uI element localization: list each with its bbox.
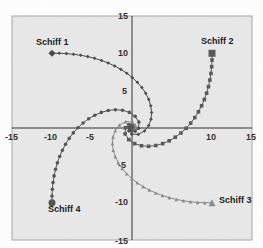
series-4-marker xyxy=(54,168,58,172)
series-4-marker xyxy=(114,108,118,112)
series-2-marker xyxy=(203,98,207,102)
chart-container: -15 -10 -5 10 15 15 10 5 -5 -10 -15 Schi… xyxy=(0,0,263,248)
series-2-marker xyxy=(205,91,209,95)
series-2-marker xyxy=(189,121,193,125)
series-2-marker xyxy=(127,138,131,142)
series-4-marker xyxy=(51,187,55,191)
series-4-marker xyxy=(58,155,62,159)
series-2-marker xyxy=(147,144,151,148)
series-2-marker xyxy=(124,126,128,130)
series-2-marker xyxy=(174,135,178,139)
series-2-marker xyxy=(207,85,211,89)
series-4-marker xyxy=(137,120,141,124)
series-2-marker xyxy=(193,116,197,120)
series-4-marker xyxy=(137,126,141,130)
series-4-marker xyxy=(51,181,55,185)
series-2-marker xyxy=(154,144,158,148)
series-2-marker xyxy=(210,65,214,69)
series-4-marker xyxy=(76,126,80,130)
series-2-marker xyxy=(209,72,213,76)
series-4-marker xyxy=(67,137,71,141)
series-4-marker xyxy=(56,161,60,165)
series-4-marker xyxy=(121,108,125,112)
x-tick-15: 15 xyxy=(246,132,256,142)
y-tick-m15: -15 xyxy=(115,236,128,246)
series-4-marker xyxy=(100,111,104,115)
pursuit-chart: -15 -10 -5 10 15 15 10 5 -5 -10 -15 Schi… xyxy=(0,0,263,248)
series-4-marker xyxy=(131,126,135,130)
series-2-marker xyxy=(184,126,188,130)
x-tick-m15: -15 xyxy=(5,132,18,142)
series-4-marker xyxy=(106,109,110,113)
series-4-marker xyxy=(72,131,76,135)
x-tick-10: 10 xyxy=(206,132,216,142)
series-2-marker xyxy=(140,144,144,148)
label-schiff-2: Schiff 2 xyxy=(201,36,234,46)
series-4-marker xyxy=(61,148,65,152)
label-schiff-1: Schiff 1 xyxy=(36,37,69,47)
series-4-marker xyxy=(133,129,137,133)
series-2-marker xyxy=(197,110,201,114)
series-2-marker xyxy=(209,50,216,57)
series-2-marker xyxy=(210,58,214,62)
label-schiff-3: Schiff 3 xyxy=(219,195,252,205)
series-2-marker xyxy=(161,142,165,146)
label-schiff-4: Schiff 4 xyxy=(48,204,81,214)
y-tick-10: 10 xyxy=(118,48,128,58)
x-tick-m5: -5 xyxy=(86,132,94,142)
series-4-marker xyxy=(81,121,85,125)
series-4-marker xyxy=(93,113,97,117)
series-2-marker xyxy=(200,104,204,108)
series-4-marker xyxy=(87,117,91,121)
y-tick-5: 5 xyxy=(122,86,127,96)
series-4-marker xyxy=(133,115,137,119)
series-4-marker xyxy=(64,142,68,146)
series-2-marker xyxy=(167,139,171,143)
series-2-marker xyxy=(208,78,212,82)
series-2-marker xyxy=(123,132,127,136)
series-4-marker xyxy=(52,174,56,178)
y-tick-15: 15 xyxy=(118,11,128,21)
x-tick-m10: -10 xyxy=(44,132,57,142)
y-tick-m10: -10 xyxy=(115,197,128,207)
series-2-marker xyxy=(133,142,137,146)
series-4-marker xyxy=(128,111,132,115)
series-2-marker xyxy=(179,131,183,135)
series-4-marker xyxy=(50,194,54,198)
